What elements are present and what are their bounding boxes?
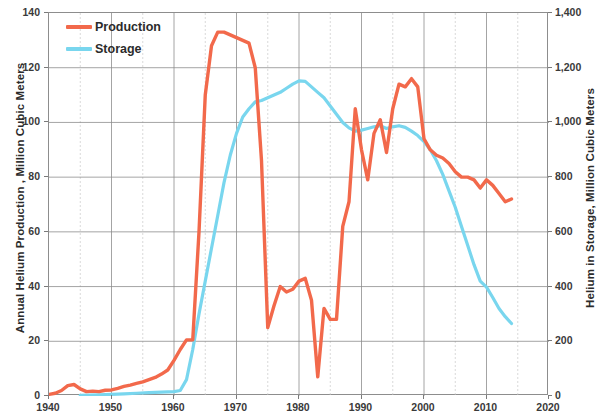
x-axis-tick-label: 1960 <box>149 401 197 413</box>
y-axis-right-tick-label: 0 <box>555 389 597 401</box>
y-axis-left-tick-mark <box>44 67 48 68</box>
y-axis-left-tick-label: 100 <box>0 115 40 127</box>
y-axis-right-tick-mark <box>548 231 552 232</box>
y-axis-right-tick-label: 200 <box>555 334 597 346</box>
y-axis-right-tick-mark <box>548 286 552 287</box>
x-axis-tick-mark <box>111 395 112 399</box>
y-axis-right-tick-label: 600 <box>555 225 597 237</box>
y-axis-left-tick-mark <box>44 231 48 232</box>
legend-label-production: Production <box>95 20 161 34</box>
y-axis-right-tick-mark <box>548 340 552 341</box>
y-axis-left-tick-label: 40 <box>0 280 40 292</box>
y-axis-left-tick-mark <box>44 121 48 122</box>
y-axis-left-tick-label: 60 <box>0 225 40 237</box>
y-axis-left-tick-label: 20 <box>0 334 40 346</box>
x-axis-tick-mark <box>173 395 174 399</box>
y-axis-right-tick-label: 800 <box>555 170 597 182</box>
x-axis-tick-label: 1950 <box>87 401 135 413</box>
y-axis-left-tick-label: 80 <box>0 170 40 182</box>
x-axis-tick-mark <box>236 395 237 399</box>
y-axis-right-title: Helium in Storage, Million Cubic Meters <box>584 48 596 348</box>
grid-major-lines <box>49 13 549 396</box>
y-axis-left-tick-label: 120 <box>0 61 40 73</box>
plot-area <box>48 12 548 395</box>
chart-container: Annual Helium Production , Million Cubic… <box>0 0 597 418</box>
y-axis-right-tick-label: 1,200 <box>555 61 597 73</box>
y-axis-right-tick-mark <box>548 67 552 68</box>
x-axis-tick-label: 1990 <box>337 401 385 413</box>
legend-item-production: Production <box>66 18 161 36</box>
y-axis-left-tick-mark <box>44 12 48 13</box>
y-axis-left-tick-mark <box>44 340 48 341</box>
legend-swatch-storage <box>66 47 92 51</box>
y-axis-left-tick-mark <box>44 286 48 287</box>
y-axis-left-title: Annual Helium Production , Million Cubic… <box>14 48 26 348</box>
x-axis-tick-label: 1940 <box>24 401 72 413</box>
legend-label-storage: Storage <box>95 42 142 56</box>
y-axis-right-tick-label: 400 <box>555 280 597 292</box>
x-axis-tick-label: 2020 <box>524 401 572 413</box>
y-axis-right-tick-mark <box>548 12 552 13</box>
y-axis-left-tick-label: 140 <box>0 6 40 18</box>
x-axis-tick-mark <box>548 395 549 399</box>
x-axis-tick-label: 1970 <box>212 401 260 413</box>
x-axis-tick-mark <box>423 395 424 399</box>
y-axis-left-tick-mark <box>44 176 48 177</box>
y-axis-right-tick-label: 1,000 <box>555 115 597 127</box>
x-axis-tick-mark <box>361 395 362 399</box>
y-axis-right-tick-mark <box>548 121 552 122</box>
legend-item-storage: Storage <box>66 40 161 58</box>
y-axis-left-tick-label: 0 <box>0 389 40 401</box>
x-axis-tick-label: 2010 <box>462 401 510 413</box>
series-line-production <box>49 32 512 394</box>
x-axis-tick-mark <box>298 395 299 399</box>
series-line-storage <box>80 81 511 396</box>
x-axis-tick-label: 1980 <box>274 401 322 413</box>
plot-svg <box>49 13 549 396</box>
x-axis-tick-mark <box>486 395 487 399</box>
legend-swatch-production <box>66 25 92 29</box>
x-axis-tick-label: 2000 <box>399 401 447 413</box>
y-axis-right-tick-mark <box>548 176 552 177</box>
chart-legend: Production Storage <box>66 18 161 58</box>
x-axis-tick-mark <box>48 395 49 399</box>
y-axis-right-tick-label: 1,400 <box>555 6 597 18</box>
